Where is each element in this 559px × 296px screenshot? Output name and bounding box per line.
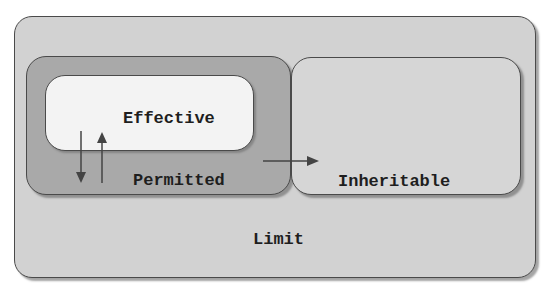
arrows-layer: [0, 0, 559, 296]
arrow-permitted-to-inheritable: [263, 156, 319, 166]
arrow-effective-to-permitted: [76, 131, 86, 183]
arrow-permitted-to-effective: [97, 132, 107, 183]
